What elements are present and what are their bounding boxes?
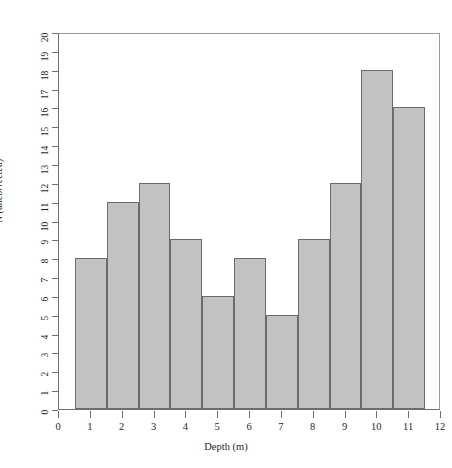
- x-tick-label: 3: [142, 421, 166, 432]
- bar: [170, 239, 202, 409]
- x-tick-label: 6: [237, 421, 261, 432]
- x-tick-label: 12: [428, 421, 452, 432]
- x-tick: [440, 411, 441, 418]
- y-axis-title: N (uncorrected): [0, 159, 4, 223]
- bar: [202, 296, 234, 409]
- x-tick-label: 4: [173, 421, 197, 432]
- x-tick: [90, 411, 91, 418]
- x-tick-label: 0: [46, 421, 70, 432]
- bar: [393, 107, 425, 409]
- x-tick-label: 7: [269, 421, 293, 432]
- x-tick: [281, 411, 282, 418]
- x-tick-label: 11: [396, 421, 420, 432]
- bar: [75, 258, 107, 409]
- bar: [330, 183, 362, 409]
- x-tick-label: 8: [301, 421, 325, 432]
- plot-area: [58, 33, 440, 410]
- x-tick-label: 5: [205, 421, 229, 432]
- x-tick-label: 1: [78, 421, 102, 432]
- x-tick-label: 9: [333, 421, 357, 432]
- x-tick: [249, 411, 250, 418]
- bar: [234, 258, 266, 409]
- bar: [266, 315, 298, 409]
- x-tick: [58, 411, 59, 418]
- bars-group: [59, 34, 439, 409]
- x-axis-title: Depth (m): [0, 441, 452, 452]
- x-tick: [185, 411, 186, 418]
- histogram-figure: N (uncorrected) 012345678910111213141516…: [0, 0, 452, 468]
- x-tick: [376, 411, 377, 418]
- y-tick-label: 20: [41, 33, 51, 59]
- bar: [361, 70, 393, 409]
- x-tick-label: 2: [110, 421, 134, 432]
- x-tick: [408, 411, 409, 418]
- x-tick: [313, 411, 314, 418]
- x-tick-label: 10: [364, 421, 388, 432]
- bar: [298, 239, 330, 409]
- x-tick: [154, 411, 155, 418]
- bar: [107, 202, 139, 409]
- x-tick: [345, 411, 346, 418]
- x-tick: [122, 411, 123, 418]
- x-tick: [217, 411, 218, 418]
- bar: [139, 183, 171, 409]
